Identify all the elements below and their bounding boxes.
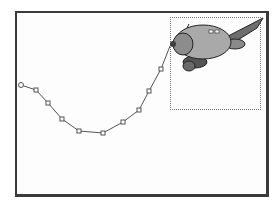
path-vertex[interactable] (60, 117, 64, 121)
path-vertex[interactable] (147, 89, 151, 93)
path-vertex[interactable] (137, 108, 141, 112)
path-vertex[interactable] (159, 67, 163, 71)
path-start-handle[interactable] (19, 83, 24, 88)
path-vertex[interactable] (121, 120, 125, 124)
path-vertex[interactable] (77, 129, 81, 133)
airplane-clipart-icon[interactable] (165, 14, 265, 76)
path-vertex[interactable] (101, 131, 105, 135)
path-vertex[interactable] (34, 88, 38, 92)
path-vertex[interactable] (46, 101, 50, 105)
